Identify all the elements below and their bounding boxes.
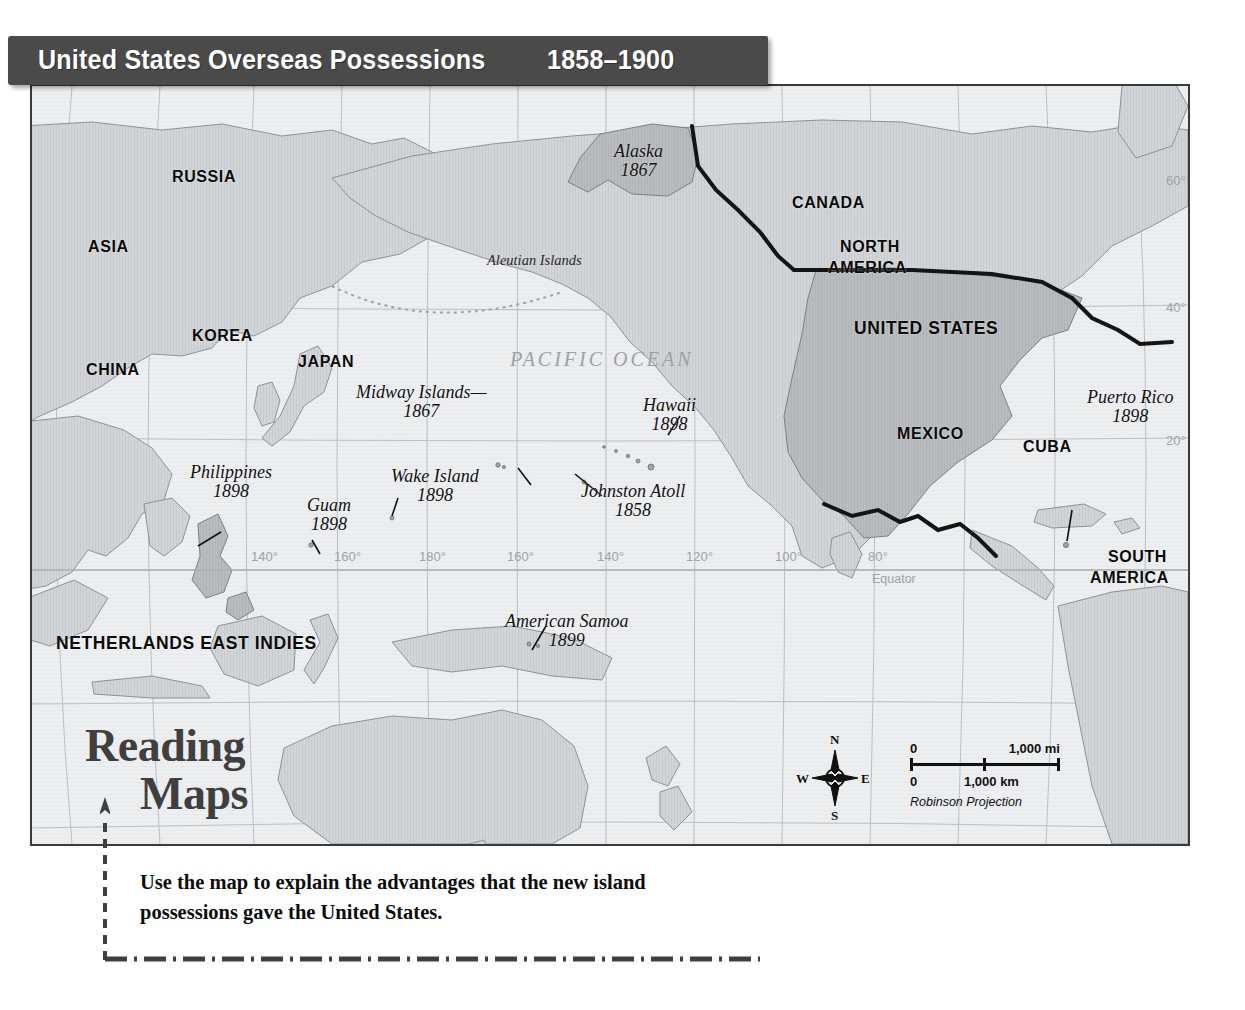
reading-maps-line2: Maps	[140, 772, 248, 816]
map-title-years: 1858–1900	[547, 45, 674, 76]
reading-maps-heading: Reading Maps	[85, 724, 248, 815]
callout-bottom-rule	[105, 956, 760, 962]
scale-miles-value: 1,000 mi	[1009, 741, 1060, 756]
compass-rose: N S E W	[798, 734, 872, 822]
reading-maps-prompt: Use the map to explain the advantages th…	[140, 868, 740, 927]
map-title-banner: United States Overseas Possessions 1858–…	[8, 36, 768, 85]
compass-east-label: E	[861, 771, 870, 787]
callout-arrow-rule	[100, 795, 110, 960]
compass-north-label: N	[830, 732, 839, 748]
map-title-text: United States Overseas Possessions	[38, 45, 485, 76]
scale-miles-row: 0 1,000 mi	[910, 741, 1060, 756]
scale-bar: 0 1,000 mi 0 1,000 km Robinson Projectio…	[910, 741, 1060, 809]
projection-label: Robinson Projection	[910, 795, 1060, 809]
reading-maps-line1: Reading	[85, 724, 248, 768]
scale-km-value: 1,000 km	[964, 774, 1019, 789]
compass-west-label: W	[796, 771, 809, 787]
scale-km-row: 0 1,000 km	[910, 772, 1060, 789]
compass-south-label: S	[831, 808, 838, 824]
scale-bar-graphic	[910, 758, 1060, 770]
scale-miles-zero: 0	[910, 741, 917, 756]
